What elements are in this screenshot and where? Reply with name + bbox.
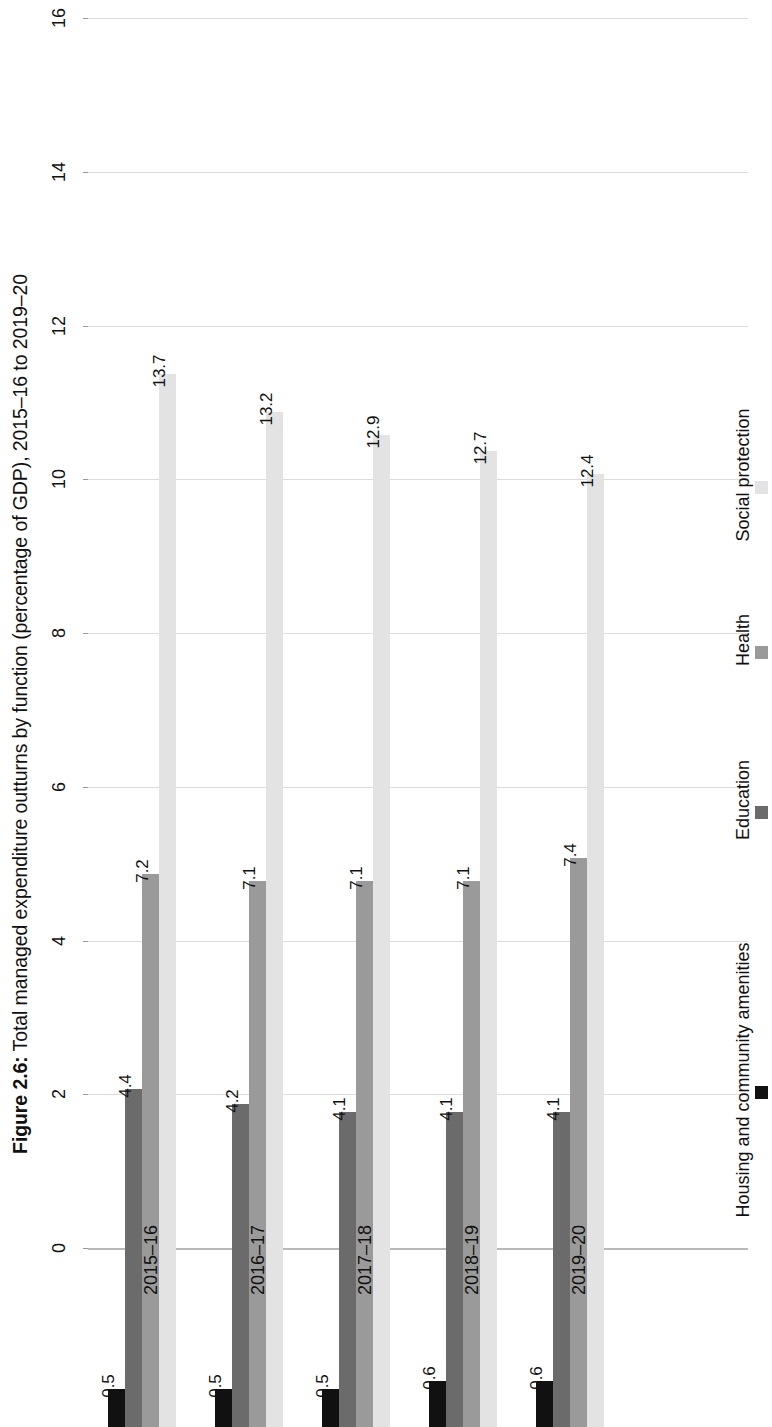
legend-label: Education — [735, 790, 769, 800]
legend-item[interactable]: Education — [730, 805, 772, 819]
value-tick-mark-10 — [83, 479, 88, 480]
value-tick-label-0: 0 — [36, 1237, 82, 1259]
bar-value-label: 13.2 — [247, 389, 303, 409]
category-label: 2016–17 — [204, 1254, 294, 1404]
gridline-12 — [88, 326, 748, 327]
bar-value-label: 12.4 — [568, 451, 624, 471]
category-label: 2017–18 — [311, 1254, 401, 1404]
category-label: 2015–16 — [97, 1254, 187, 1404]
category-label: 2019–20 — [525, 1254, 615, 1404]
gridline-10 — [88, 479, 748, 480]
value-tick-mark-4 — [83, 941, 88, 942]
gridline-16 — [88, 18, 748, 19]
legend-swatch — [755, 806, 768, 819]
value-tick-label-4: 4 — [36, 930, 82, 952]
chart-legend: Housing and community amenitiesEducation… — [730, 0, 772, 1427]
legend-label: Health — [735, 630, 769, 640]
bar-value-label: 12.7 — [461, 428, 517, 448]
gridline-8 — [88, 633, 748, 634]
legend-swatch — [755, 1086, 768, 1099]
legend-label: Housing and community amenities — [735, 1070, 769, 1080]
gridline-2 — [88, 1094, 748, 1095]
legend-label: Social protection — [735, 465, 769, 475]
value-tick-mark-6 — [83, 787, 88, 788]
value-tick-mark-14 — [83, 172, 88, 173]
category-label: 2018–19 — [418, 1254, 508, 1404]
legend-item[interactable]: Health — [730, 645, 772, 659]
value-tick-label-2: 2 — [36, 1083, 82, 1105]
value-tick-label-14: 14 — [36, 161, 82, 183]
bar-value-label: 12.9 — [354, 412, 410, 432]
figure-title-text: Total managed expenditure outturns by fu… — [9, 274, 31, 1056]
legend-item[interactable]: Social protection — [730, 480, 772, 494]
value-tick-mark-8 — [83, 633, 88, 634]
value-tick-label-10: 10 — [36, 468, 82, 490]
value-tick-label-12: 12 — [36, 315, 82, 337]
gridline-14 — [88, 172, 748, 173]
chart-plot-area: 0246810121416 0.54.47.213.70.54.27.113.2… — [88, 0, 748, 1427]
gridline-4 — [88, 941, 748, 942]
gridline-6 — [88, 787, 748, 788]
value-tick-label-6: 6 — [36, 776, 82, 798]
figure-number: Figure 2.6: — [9, 1056, 31, 1154]
value-tick-mark-16 — [83, 18, 88, 19]
axis-baseline — [88, 1248, 748, 1250]
bar-value-label: 13.7 — [140, 351, 196, 371]
legend-swatch — [755, 481, 768, 494]
legend-item[interactable]: Housing and community amenities — [730, 1085, 772, 1099]
value-tick-mark-2 — [83, 1094, 88, 1095]
value-tick-label-8: 8 — [36, 622, 82, 644]
legend-swatch — [755, 646, 768, 659]
value-tick-label-16: 16 — [36, 7, 82, 29]
value-tick-mark-0 — [83, 1248, 88, 1249]
figure-title: Figure 2.6: Total managed expenditure ou… — [0, 0, 42, 1427]
value-tick-mark-12 — [83, 326, 88, 327]
